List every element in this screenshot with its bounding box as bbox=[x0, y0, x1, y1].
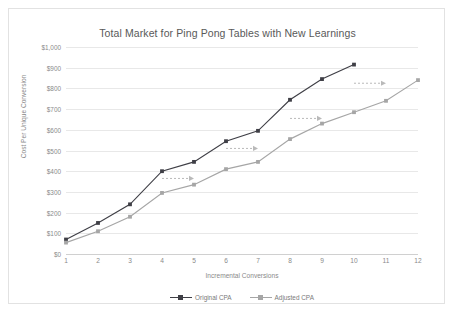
data-point-marker bbox=[96, 229, 100, 233]
y-axis-tick-label: $1,000 bbox=[9, 44, 61, 51]
legend-label: Original CPA bbox=[195, 294, 231, 301]
annotation-arrowhead bbox=[317, 116, 322, 121]
y-axis-tick-label: $800 bbox=[9, 85, 61, 92]
chart-title: Total Market for Ping Pong Tables with N… bbox=[9, 27, 446, 39]
x-axis-tick-label: 2 bbox=[88, 257, 108, 264]
plot-svg bbox=[66, 47, 418, 254]
data-point-marker bbox=[288, 98, 292, 102]
series-line-original-cpa bbox=[66, 65, 354, 240]
y-axis-tick-label: $0 bbox=[9, 251, 61, 258]
data-point-marker bbox=[256, 129, 260, 133]
y-axis-tick-label: $100 bbox=[9, 230, 61, 237]
annotation-arrowhead bbox=[381, 81, 386, 86]
legend-item-adjusted-cpa[interactable]: Adjusted CPA bbox=[250, 293, 314, 301]
data-point-marker bbox=[320, 77, 324, 81]
data-point-marker bbox=[288, 137, 292, 141]
data-point-marker bbox=[416, 78, 420, 82]
data-point-marker bbox=[352, 110, 356, 114]
x-axis-tick-label: 8 bbox=[280, 257, 300, 264]
y-axis-tick-label: $600 bbox=[9, 126, 61, 133]
x-axis-tick-label: 3 bbox=[120, 257, 140, 264]
data-point-marker bbox=[192, 160, 196, 164]
y-axis-tick-label: $500 bbox=[9, 147, 61, 154]
data-point-marker bbox=[320, 122, 324, 126]
data-point-marker bbox=[160, 191, 164, 195]
data-point-marker bbox=[64, 241, 68, 245]
plot-area bbox=[66, 47, 418, 254]
data-point-marker bbox=[384, 99, 388, 103]
x-axis-title: Incremental Conversions bbox=[66, 272, 418, 279]
legend-label: Adjusted CPA bbox=[275, 294, 314, 301]
data-point-marker bbox=[128, 215, 132, 219]
y-axis-tick-label: $400 bbox=[9, 168, 61, 175]
y-axis-title: Cost Per Unique Conversion bbox=[20, 37, 27, 197]
x-axis-tick-label: 4 bbox=[152, 257, 172, 264]
legend-item-original-cpa[interactable]: Original CPA bbox=[170, 293, 231, 301]
y-axis-tick-labels: $0$100$200$300$400$500$600$700$800$900$1… bbox=[9, 47, 61, 254]
x-axis-tick-labels: 123456789101112 bbox=[66, 257, 418, 271]
y-axis-tick-label: $900 bbox=[9, 64, 61, 71]
series-line-adjusted-cpa bbox=[66, 80, 418, 242]
x-axis-tick-label: 10 bbox=[344, 257, 364, 264]
x-axis-tick-label: 12 bbox=[408, 257, 428, 264]
data-point-marker bbox=[224, 167, 228, 171]
data-point-marker bbox=[96, 221, 100, 225]
data-point-marker bbox=[352, 63, 356, 67]
data-point-marker bbox=[160, 169, 164, 173]
legend-swatch-icon bbox=[250, 293, 272, 301]
chart-legend: Original CPAAdjusted CPA bbox=[66, 290, 418, 304]
x-axis-tick-label: 6 bbox=[216, 257, 236, 264]
data-point-marker bbox=[224, 139, 228, 143]
x-axis-tick-label: 7 bbox=[248, 257, 268, 264]
x-axis-tick-label: 11 bbox=[376, 257, 396, 264]
y-axis-tick-label: $300 bbox=[9, 188, 61, 195]
annotation-arrowhead bbox=[189, 176, 194, 181]
data-point-marker bbox=[192, 183, 196, 187]
y-axis-tick-label: $200 bbox=[9, 209, 61, 216]
data-point-marker bbox=[128, 202, 132, 206]
data-point-marker bbox=[256, 160, 260, 164]
legend-swatch-icon bbox=[170, 293, 192, 301]
annotation-arrowhead bbox=[253, 146, 258, 151]
y-axis-tick-label: $700 bbox=[9, 106, 61, 113]
x-axis-tick-label: 5 bbox=[184, 257, 204, 264]
chart-container: Total Market for Ping Pong Tables with N… bbox=[8, 8, 445, 304]
gridline bbox=[66, 254, 418, 255]
x-axis-tick-label: 9 bbox=[312, 257, 332, 264]
x-axis-tick-label: 1 bbox=[56, 257, 76, 264]
